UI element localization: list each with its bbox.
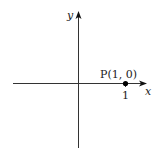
coordinate-diagram: y x P(1, 0) 1: [0, 0, 157, 160]
y-axis: [76, 11, 82, 148]
x-axis-label: x: [145, 85, 152, 98]
diagram-canvas: y x P(1, 0) 1: [0, 0, 157, 160]
point-p-label: P(1, 0): [100, 68, 137, 81]
x-tick-label-1: 1: [122, 89, 129, 102]
point-p-marker: [123, 81, 128, 86]
y-axis-label: y: [66, 9, 74, 22]
